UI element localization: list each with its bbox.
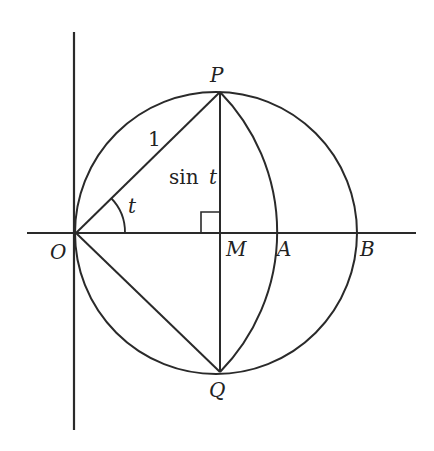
label-b: B [359, 237, 375, 261]
label-p: P [209, 63, 224, 87]
unit-circle-diagram: O P Q M A B 1 t sin t [0, 0, 434, 451]
label-angle-t: t [128, 194, 137, 218]
label-o: O [50, 240, 66, 264]
label-q: Q [209, 378, 225, 402]
segment-oq [76, 233, 220, 372]
right-angle-marker [201, 212, 220, 233]
label-sin-t: sin t [169, 165, 218, 189]
segment-op [76, 92, 220, 233]
label-a: A [275, 237, 291, 261]
label-radius-1: 1 [148, 127, 161, 151]
label-sin-prefix: sin [169, 165, 199, 189]
label-m: M [225, 237, 247, 261]
label-sin-var: t [209, 165, 218, 189]
angle-t-arc [111, 198, 125, 233]
